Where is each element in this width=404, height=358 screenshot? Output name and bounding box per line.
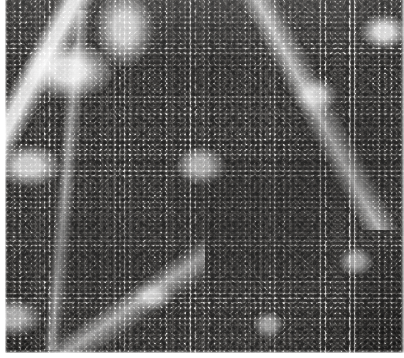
figure-root (0, 0, 404, 358)
page-margin-left (0, 0, 5, 358)
page-margin-bottom (0, 353, 404, 358)
histology-micrograph-image (5, 0, 404, 353)
plate-edge-left (5, 0, 7, 353)
illumination-vignette-layer (5, 0, 404, 353)
